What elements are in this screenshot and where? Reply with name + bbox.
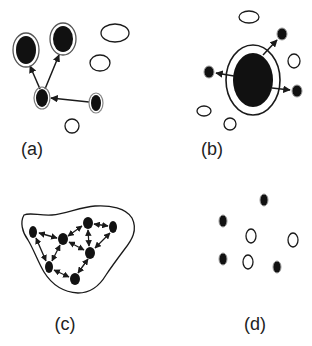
filled-node [36,89,48,107]
filled-node [85,247,95,259]
edge [52,245,60,261]
filled-node [45,261,53,273]
panel-label-b: (b) [201,139,223,159]
panel-a: (a) [13,23,129,159]
filled-node [204,66,214,78]
edge [51,98,89,102]
edge [68,226,82,236]
empty-node [239,11,259,23]
filled-node [91,95,101,111]
filled-node [292,85,302,97]
edge [88,230,89,246]
edge [45,55,59,89]
filled-node [273,261,281,273]
filled-node [29,226,37,238]
panel-d: (d) [219,194,298,334]
filled-node [83,217,93,229]
edge [94,224,108,226]
filled-node [53,26,73,52]
filled-node [260,194,268,206]
panel-label-d: (d) [244,314,266,334]
edge [95,233,110,248]
central-node [233,53,273,107]
empty-node [197,106,211,116]
edge [78,259,88,273]
edge [216,73,234,76]
edge [39,233,57,238]
empty-node [90,55,110,71]
filled-node [58,233,68,245]
edge [54,270,69,277]
panel-label-c: (c) [55,314,76,334]
empty-node [224,118,236,130]
empty-node [246,229,256,243]
filled-node [219,253,227,265]
empty-node [288,54,300,68]
panel-c: (c) [22,206,135,334]
edge [69,242,84,250]
empty-node [101,24,129,42]
edge [272,88,290,90]
panel-label-a: (a) [21,139,43,159]
empty-node [243,255,253,269]
diagram-canvas: (a) (b) [0,0,312,346]
filled-node [277,28,287,40]
panel-b: (b) [197,11,302,159]
empty-node [65,119,79,133]
filled-node [219,215,227,227]
empty-node [288,233,298,247]
edge [30,66,40,89]
filled-node [109,221,117,233]
filled-node [70,273,80,285]
edge [36,238,46,261]
filled-node [16,36,36,64]
